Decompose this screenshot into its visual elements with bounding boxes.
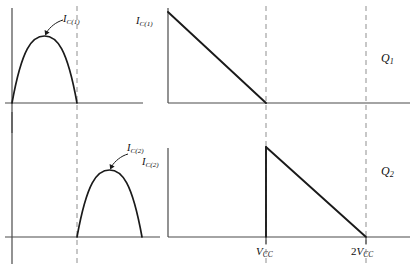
label-ic2-ramp-sub: C(2)	[146, 161, 159, 169]
label-ic1-waveform: IC(1)	[63, 14, 80, 26]
x-axis-ticks	[266, 237, 366, 244]
label-ic1-waveform-sub: C(1)	[67, 18, 80, 26]
ramp-ic2-descending	[266, 147, 366, 237]
label-ic2-waveform-sub: C(2)	[131, 147, 144, 155]
label-q2-main: Q	[381, 164, 390, 178]
label-ic1-ramp: IC(1)	[136, 16, 153, 28]
curve-ic2-half-sine	[77, 170, 142, 237]
label-ic2-ramp: IC(2)	[142, 157, 159, 169]
figure-canvas	[0, 0, 415, 270]
panel-top-right	[168, 8, 410, 103]
label-q1-sub: 1	[390, 57, 394, 66]
panel-bottom-right	[168, 147, 410, 237]
label-ic1-ramp-sub: C(1)	[140, 20, 153, 28]
figure-class-b-collector-currents: IC(1) IC(1) IC(2) IC(2) Q1 Q2 VCC 2VCC	[0, 0, 415, 270]
label-ic2-waveform: IC(2)	[127, 143, 144, 155]
axis-label-2vcc: 2VCC	[351, 246, 373, 259]
panel-top-left	[5, 8, 143, 133]
panel-bottom-left	[5, 112, 160, 264]
axis-label-vcc-sub: CC	[263, 250, 273, 259]
label-q1-main: Q	[381, 51, 390, 65]
arrow-to-ic1-peak	[47, 20, 64, 33]
label-q2-sub: 2	[390, 170, 394, 179]
label-q1: Q1	[381, 52, 394, 66]
arrow-to-ic2-peak	[112, 154, 129, 167]
curve-ic1-half-sine	[12, 36, 77, 103]
axis-label-2vcc-sub: CC	[363, 250, 373, 259]
dashed-gridlines	[77, 6, 366, 264]
axis-label-vcc: VCC	[256, 246, 273, 259]
ramp-ic1-descending	[168, 12, 266, 103]
axis-label-vcc-main: V	[256, 245, 263, 257]
label-q2: Q2	[381, 165, 394, 179]
